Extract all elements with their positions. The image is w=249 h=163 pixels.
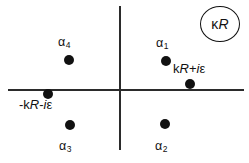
pole-label-minus-kr-minus-i-epsilon: -kR-iε — [19, 98, 52, 111]
pole-label-kr-plus-i-epsilon: kR+iε — [173, 62, 205, 75]
circled-kappa-r-annotation: κR — [200, 6, 240, 42]
kappa-glyph: κ — [211, 16, 218, 32]
pole-point-alpha4 — [64, 55, 74, 65]
alpha-subscript: 2 — [162, 144, 167, 154]
epsilon-glyph: ε — [199, 61, 205, 76]
r-glyph: R — [30, 97, 39, 112]
alpha-subscript: 4 — [65, 40, 70, 50]
pole-point-kr-plus-i-epsilon — [185, 79, 195, 89]
complex-plane-pole-diagram: α4 α1 α3 α2 kR+iε -kR-iε κR — [0, 0, 249, 163]
r-glyph: R — [218, 16, 228, 32]
alpha-subscript: 3 — [66, 144, 71, 154]
epsilon-glyph: ε — [46, 97, 52, 112]
r-glyph: R — [180, 61, 189, 76]
pole-label-alpha2: α2 — [155, 140, 167, 154]
pole-label-alpha4: α4 — [58, 36, 70, 50]
pole-label-alpha3: α3 — [59, 140, 71, 154]
pole-label-alpha1: α1 — [156, 37, 168, 51]
pole-point-alpha3 — [65, 120, 75, 130]
alpha-subscript: 1 — [163, 41, 168, 51]
pole-point-alpha1 — [161, 56, 171, 66]
vertical-axis — [119, 6, 121, 150]
pole-point-alpha2 — [160, 119, 170, 129]
